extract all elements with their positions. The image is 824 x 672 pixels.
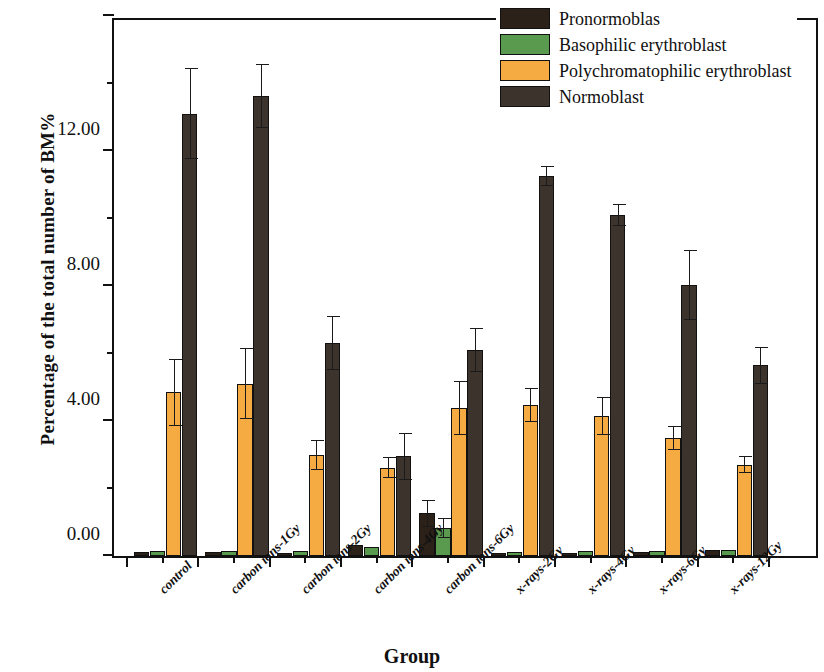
error-bar <box>404 433 405 480</box>
x-tick-minor <box>518 556 520 563</box>
y-tick-major <box>103 284 114 286</box>
bar-group <box>277 20 341 556</box>
error-bar <box>174 359 175 427</box>
x-tick-minor <box>304 556 306 563</box>
bar <box>182 114 198 556</box>
legend-swatch <box>500 8 550 29</box>
bar <box>681 285 697 556</box>
y-tick-major <box>103 419 114 421</box>
y-tick-label: 0.00 <box>67 523 100 545</box>
legend-item: Basophilic erythroblast <box>500 32 791 57</box>
bar <box>309 455 325 556</box>
error-bar <box>618 204 619 226</box>
y-tick-major <box>103 554 114 556</box>
bar <box>221 551 237 556</box>
bar <box>539 176 555 556</box>
bar <box>150 551 166 556</box>
error-bar <box>261 64 262 128</box>
bar <box>665 438 681 556</box>
error-bar <box>245 348 246 419</box>
bar <box>594 416 610 556</box>
error-bar <box>673 426 674 450</box>
bar <box>737 465 753 556</box>
error-bar <box>602 397 603 434</box>
x-tick-label: control <box>156 558 195 597</box>
error-bar <box>332 316 333 370</box>
y-tick-label: 16.00 <box>57 0 100 5</box>
y-tick-label: 8.00 <box>67 253 100 275</box>
legend-swatch <box>500 34 550 55</box>
legend-label: Pronormoblas <box>559 10 660 28</box>
bar <box>325 343 341 556</box>
error-bar <box>388 457 389 477</box>
error-bar <box>689 250 690 321</box>
bar <box>721 550 737 556</box>
x-tick-minor <box>162 556 164 563</box>
bar <box>293 551 309 556</box>
y-tick-minor <box>107 352 114 354</box>
bar <box>364 547 380 556</box>
bar <box>134 552 150 556</box>
y-tick-minor <box>107 82 114 84</box>
bar <box>578 551 594 556</box>
bar <box>753 365 769 556</box>
error-bar <box>316 440 317 470</box>
bar-group <box>348 20 412 556</box>
x-tick-minor <box>376 556 378 563</box>
y-axis-title: Percentage of the total number of BM% <box>37 0 59 559</box>
bar <box>253 96 269 556</box>
error-bar <box>744 456 745 473</box>
error-bar <box>475 328 476 372</box>
x-tick-minor <box>447 556 449 563</box>
error-bar <box>530 388 531 422</box>
x-tick-minor <box>233 556 235 563</box>
y-tick-label: 12.00 <box>57 118 100 140</box>
bar <box>467 350 483 556</box>
x-tick-major <box>197 556 199 567</box>
bar-group <box>134 20 198 556</box>
y-tick-minor <box>107 217 114 219</box>
bar-group <box>419 20 483 556</box>
x-tick-major <box>126 556 128 567</box>
y-tick-major <box>103 14 114 16</box>
bar <box>610 215 626 556</box>
error-bar <box>760 347 761 384</box>
legend-item: Polychromatophilic erythroblast <box>500 58 791 83</box>
figure: Percentage of the total number of BM% 0.… <box>0 0 824 672</box>
y-tick-major <box>103 149 114 151</box>
legend-item: Normoblast <box>500 84 791 109</box>
bar <box>523 405 539 556</box>
bar <box>380 468 396 556</box>
x-axis-title: Group <box>0 645 824 668</box>
legend-swatch <box>500 60 550 81</box>
bar <box>649 551 665 556</box>
y-tick-label: 4.00 <box>67 388 100 410</box>
bar <box>205 552 221 556</box>
legend-label: Basophilic erythroblast <box>559 36 726 54</box>
chart-legend: PronormoblasBasophilic erythroblastPolyc… <box>496 2 797 113</box>
bar-group <box>205 20 269 556</box>
x-tick-minor <box>661 556 663 563</box>
x-tick-minor <box>732 556 734 563</box>
error-bar <box>459 381 460 435</box>
bar <box>507 552 523 556</box>
legend-label: Polychromatophilic erythroblast <box>559 62 791 80</box>
error-bar <box>427 500 428 527</box>
x-tick-minor <box>590 556 592 563</box>
y-tick-minor <box>107 487 114 489</box>
legend-item: Pronormoblas <box>500 6 791 31</box>
legend-label: Normoblast <box>559 88 644 106</box>
error-bar <box>190 68 191 159</box>
legend-swatch <box>500 86 550 107</box>
error-bar <box>546 166 547 186</box>
